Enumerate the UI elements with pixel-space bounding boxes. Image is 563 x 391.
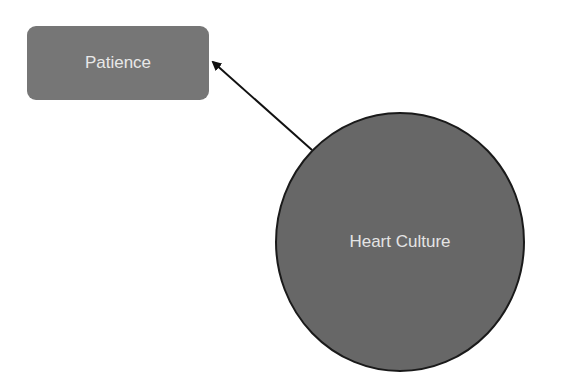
node-heart-culture[interactable]: Heart Culture (276, 113, 524, 371)
node-patience[interactable]: Patience (27, 26, 209, 100)
node-patience-label: Patience (85, 53, 151, 73)
node-heart-culture-label: Heart Culture (349, 232, 450, 252)
